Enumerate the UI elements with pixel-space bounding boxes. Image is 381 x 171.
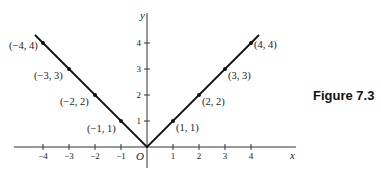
- point-label: (−4, 4): [9, 40, 38, 52]
- x-tick-label: 2: [197, 151, 202, 161]
- y-tick-label: 4: [137, 38, 142, 48]
- x-tick-label: 3: [223, 151, 228, 161]
- point-label: (−1, 1): [87, 123, 116, 135]
- origin-label: O: [136, 150, 144, 162]
- y-axis-label: y: [139, 9, 145, 21]
- absolute-value-graph: −4 −3 −2 −1 1 2 3 4 1 2 3 4 x y O (−4, 4…: [0, 0, 381, 171]
- y-tick-label: 2: [137, 90, 142, 100]
- x-tick-label: 1: [171, 151, 176, 161]
- point-label: (4, 4): [254, 39, 277, 51]
- point-label: (1, 1): [176, 122, 199, 134]
- x-tick-label: 4: [249, 151, 254, 161]
- point-label: (2, 2): [202, 96, 225, 108]
- figure-caption: Figure 7.3: [313, 88, 374, 103]
- point-label: (−2, 2): [60, 96, 89, 108]
- x-tick-label: −4: [38, 151, 48, 161]
- x-tick-label: −1: [116, 151, 126, 161]
- point-label: (3, 3): [228, 70, 251, 82]
- y-tick-label: 1: [137, 116, 142, 126]
- x-axis-label: x: [289, 149, 295, 161]
- y-tick-label: 3: [137, 64, 142, 74]
- point-label: (−3, 3): [34, 70, 63, 82]
- x-tick-label: −3: [64, 151, 74, 161]
- x-tick-label: −2: [90, 151, 100, 161]
